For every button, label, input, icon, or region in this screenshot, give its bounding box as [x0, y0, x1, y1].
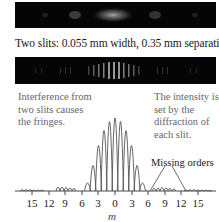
x-axis-label: m — [108, 210, 116, 222]
tick-label: 15 — [193, 197, 204, 209]
intensity-curve — [20, 118, 212, 191]
intensity-plot — [0, 0, 219, 222]
tick-label: 12 — [176, 197, 187, 209]
missing-orders-pointers — [150, 166, 186, 191]
tick-label: 0 — [112, 197, 118, 209]
tick-label: 6 — [79, 197, 85, 209]
tick-label: 3 — [95, 197, 101, 209]
tick-label: 15 — [27, 197, 38, 209]
tick-label: 12 — [44, 197, 55, 209]
tick-label: 9 — [162, 197, 168, 209]
tick-label: 3 — [129, 197, 135, 209]
tick-label: 6 — [145, 197, 151, 209]
tick-label: 9 — [62, 197, 68, 209]
x-axis-ticks — [32, 191, 198, 195]
